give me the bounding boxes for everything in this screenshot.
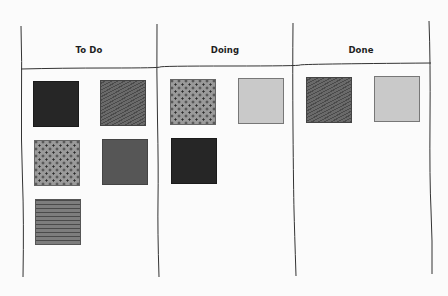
column-divider-left: [21, 26, 23, 277]
column-title-doing: Doing: [157, 45, 293, 55]
column-title-done: Done: [293, 45, 429, 55]
card-doing-1[interactable]: [170, 79, 216, 125]
card-done-2[interactable]: [374, 76, 420, 122]
kanban-board: To Do Doing Done: [0, 0, 448, 296]
card-doing-2[interactable]: [238, 78, 284, 124]
column-title-todo: To Do: [21, 45, 157, 55]
card-todo-1[interactable]: [33, 81, 79, 127]
card-todo-5[interactable]: [35, 199, 81, 245]
card-todo-2[interactable]: [100, 80, 146, 126]
header-divider: [21, 63, 431, 69]
column-divider-2: [293, 23, 296, 276]
card-todo-3[interactable]: [34, 140, 80, 186]
card-todo-4[interactable]: [102, 139, 148, 185]
column-divider-right: [429, 21, 432, 274]
card-done-1[interactable]: [306, 77, 352, 123]
column-divider-1: [157, 24, 159, 277]
card-doing-3[interactable]: [171, 138, 217, 184]
